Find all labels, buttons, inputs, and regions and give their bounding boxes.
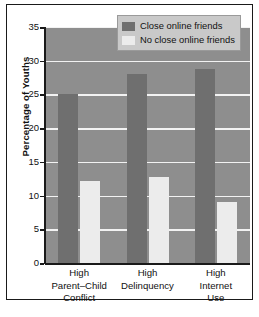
legend-swatch-icon xyxy=(122,22,135,31)
x-axis-line xyxy=(45,263,250,265)
y-axis-line xyxy=(44,27,46,264)
bar xyxy=(149,177,169,263)
y-tick-label: 0 xyxy=(34,258,39,268)
x-tick-label: HighInternetUse xyxy=(182,267,250,305)
bar xyxy=(127,74,147,263)
y-tick-label: 35 xyxy=(28,22,39,32)
x-tick-label: HighParent–ChildConflict xyxy=(45,267,113,305)
bars-layer xyxy=(45,27,250,263)
chart-legend: Close online friends No close online fri… xyxy=(117,15,241,51)
bar xyxy=(195,69,215,263)
legend-swatch-icon xyxy=(122,36,135,45)
x-axis-labels: HighParent–ChildConflictHighDelinquencyH… xyxy=(45,267,250,305)
legend-item: Close online friends xyxy=(122,19,235,33)
legend-label: No close online friends xyxy=(140,35,235,44)
bar xyxy=(80,181,100,263)
chart-frame: 05101520253035 Percentage of Youths High… xyxy=(6,4,253,300)
bar xyxy=(58,94,78,263)
legend-label: Close online friends xyxy=(140,21,222,30)
x-tick-label: HighDelinquency xyxy=(113,267,181,305)
y-tick-label: 5 xyxy=(34,225,39,235)
legend-item: No close online friends xyxy=(122,33,235,47)
y-tick-label: 10 xyxy=(28,191,39,201)
y-axis-title: Percentage of Youths xyxy=(20,37,31,177)
bar xyxy=(217,202,237,263)
chart-figure: 05101520253035 Percentage of Youths High… xyxy=(0,0,259,317)
plot-area xyxy=(45,27,250,263)
